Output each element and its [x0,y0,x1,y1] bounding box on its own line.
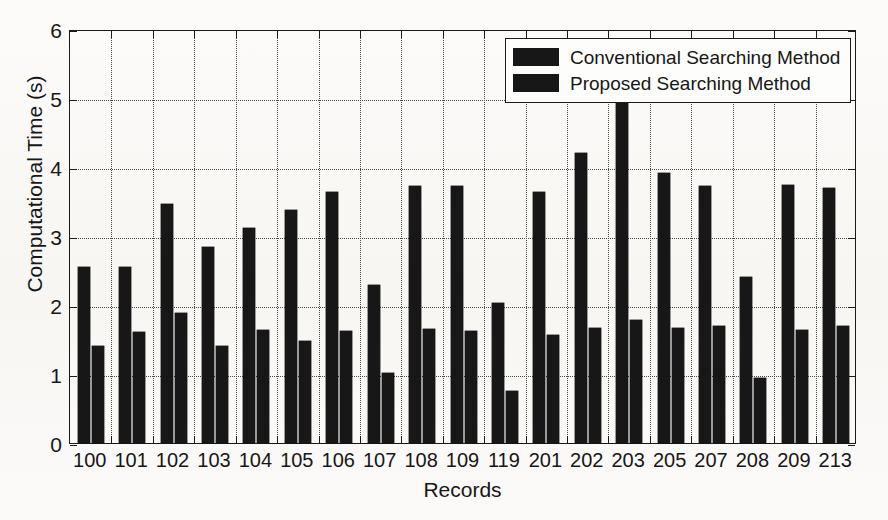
bar [658,173,670,443]
bar [754,378,766,443]
y-tick-label: 5 [50,89,62,110]
bar [340,331,352,443]
x-tick-label: 109 [446,450,479,470]
bar [533,192,545,443]
x-tick-label: 102 [156,450,189,470]
bar [326,192,338,443]
bar [699,186,711,443]
bar [465,331,477,443]
x-axis-tick-labels: 1001011021031041051061071081091192012022… [69,450,856,476]
legend-swatch-icon [513,74,559,92]
x-tick-label: 201 [529,450,562,470]
bar-chart: Computational Time (s) 0123456 100101102… [0,0,888,520]
y-tick-label: 1 [50,365,62,386]
bar [630,320,642,444]
bar [616,101,628,443]
x-tick-label: 107 [363,450,396,470]
legend-item-conventional: Conventional Searching Method [513,44,843,70]
y-tick-label: 4 [50,158,62,179]
bar [492,303,504,443]
bar [243,228,255,443]
bar [575,153,587,443]
bar [368,285,380,443]
bar [740,277,752,443]
x-tick-label: 105 [280,450,313,470]
bar [285,210,297,443]
legend-label: Proposed Searching Method [570,74,811,93]
bar [409,186,421,443]
y-tick-mark [70,445,77,446]
bar [837,326,849,443]
x-tick-label: 205 [653,450,686,470]
legend-label: Conventional Searching Method [570,48,840,67]
bar [175,313,187,443]
x-tick-label: 108 [404,450,437,470]
bar [547,335,559,443]
bar [92,346,104,443]
x-tick-label: 208 [736,450,769,470]
bar [796,330,808,443]
x-tick-label: 101 [114,450,147,470]
x-tick-label: 213 [819,450,852,470]
x-tick-label: 207 [694,450,727,470]
legend-swatch-icon [513,48,559,66]
bar [161,204,173,443]
bar [782,185,794,443]
bar [672,328,684,443]
x-tick-label: 203 [611,450,644,470]
bar [589,328,601,443]
bar [451,186,463,443]
y-tick-label: 3 [50,227,62,248]
y-tick-label: 0 [50,434,62,455]
bar [257,330,269,443]
y-tick-label: 2 [50,296,62,317]
bar [382,373,394,443]
bar [133,332,145,443]
bar [506,391,518,443]
y-tick-mark [848,445,855,446]
bar [119,267,131,443]
bar [202,247,214,443]
x-tick-label: 106 [322,450,355,470]
x-tick-label: 119 [488,450,520,470]
bar [299,341,311,443]
x-axis-title: Records [69,478,856,502]
bar [78,267,90,443]
bar [823,188,835,443]
bar [423,329,435,443]
chart-legend: Conventional Searching Method Proposed S… [505,38,851,103]
x-tick-label: 100 [73,450,106,470]
x-tick-label: 104 [239,450,272,470]
y-axis-tick-labels: 0123456 [34,30,62,444]
x-tick-label: 202 [570,450,603,470]
x-tick-label: 103 [197,450,230,470]
y-tick-label: 6 [50,20,62,41]
bar [216,346,228,443]
x-tick-label: 209 [777,450,810,470]
bar [713,326,725,443]
legend-item-proposed: Proposed Searching Method [513,70,843,96]
